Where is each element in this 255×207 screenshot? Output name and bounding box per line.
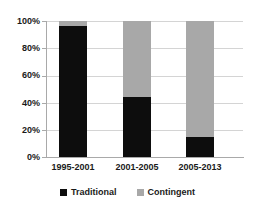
y-axis-tick-label-40: 40% xyxy=(0,99,40,108)
legend-label-traditional: Traditional xyxy=(71,188,117,197)
y-axis-tick-label-60: 60% xyxy=(0,71,40,80)
legend-item-traditional[interactable]: Traditional xyxy=(60,188,117,197)
legend-item-contingent[interactable]: Contingent xyxy=(137,188,196,197)
bar-segment-contingent[interactable] xyxy=(123,21,151,97)
x-axis-category-label-2: 2005-2013 xyxy=(162,162,238,173)
bar-1995-2001[interactable] xyxy=(59,21,87,157)
legend-swatch-icon-contingent xyxy=(137,189,144,196)
bar-2001-2005[interactable] xyxy=(123,21,151,157)
bar-segment-traditional[interactable] xyxy=(123,97,151,157)
y-axis-tick-label-0: 0% xyxy=(0,153,40,162)
y-axis-tick-label-80: 80% xyxy=(0,44,40,53)
stacked-bar-chart: 100% 80% 60% 40% 20% 0% xyxy=(0,0,255,207)
bar-segment-traditional[interactable] xyxy=(59,26,87,157)
x-axis-line xyxy=(46,157,244,158)
y-axis-labels: 100% 80% 60% 40% 20% 0% xyxy=(0,0,40,207)
legend-label-contingent: Contingent xyxy=(148,188,196,197)
y-axis-tick-label-20: 20% xyxy=(0,126,40,135)
chart-legend: Traditional Contingent xyxy=(0,188,255,197)
bar-segment-traditional[interactable] xyxy=(186,137,214,157)
y-axis-tick-label-100: 100% xyxy=(0,17,40,26)
bar-segment-contingent[interactable] xyxy=(186,21,214,137)
plot-area xyxy=(47,21,243,157)
legend-swatch-icon-traditional xyxy=(60,189,67,196)
bar-2005-2013[interactable] xyxy=(186,21,214,157)
